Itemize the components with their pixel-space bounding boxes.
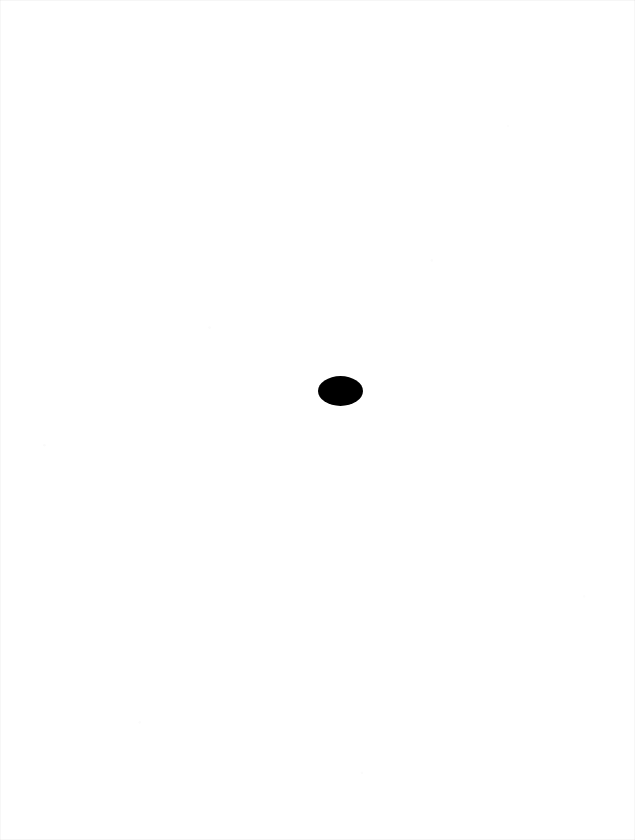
ellipse-figure-canvas (0, 0, 635, 840)
figure-area (0, 0, 635, 840)
solid-black-ellipse (318, 376, 363, 406)
scanned-page (0, 0, 635, 840)
